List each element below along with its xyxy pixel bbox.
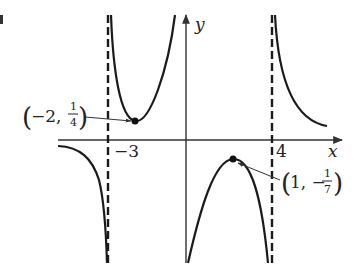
tick-label-neg3: −3 (114, 141, 139, 161)
local-maximum-point (230, 156, 237, 163)
local-minimum-label: ( −2, 1 4 ) (22, 100, 88, 132)
min-y-numerator: 1 (70, 100, 77, 113)
max-y-denominator: 7 (324, 183, 331, 196)
curve-lower-middle-branch (188, 159, 268, 263)
function-graph: y x −3 4 ( −2, 1 4 ) ( 1, − 1 7 ) (0, 0, 355, 275)
curve-right-branch (275, 15, 327, 126)
min-y-denominator: 4 (70, 116, 77, 129)
max-close-paren: ) (333, 168, 343, 198)
max-y-numerator: 1 (324, 167, 331, 180)
curve-left-branch (58, 146, 107, 263)
y-axis-label: y (194, 14, 205, 34)
local-maximum-label: ( 1, − 1 7 ) (281, 167, 343, 198)
min-close-paren: ) (78, 102, 88, 132)
tick-label-4: 4 (276, 141, 287, 161)
local-minimum-point (132, 118, 139, 125)
max-label-pointer (238, 163, 280, 180)
x-axis-label: x (328, 141, 338, 161)
min-x-value: −2, (31, 106, 61, 126)
curve-upper-middle-branch (111, 15, 175, 121)
max-x-value: 1, − (290, 172, 326, 192)
